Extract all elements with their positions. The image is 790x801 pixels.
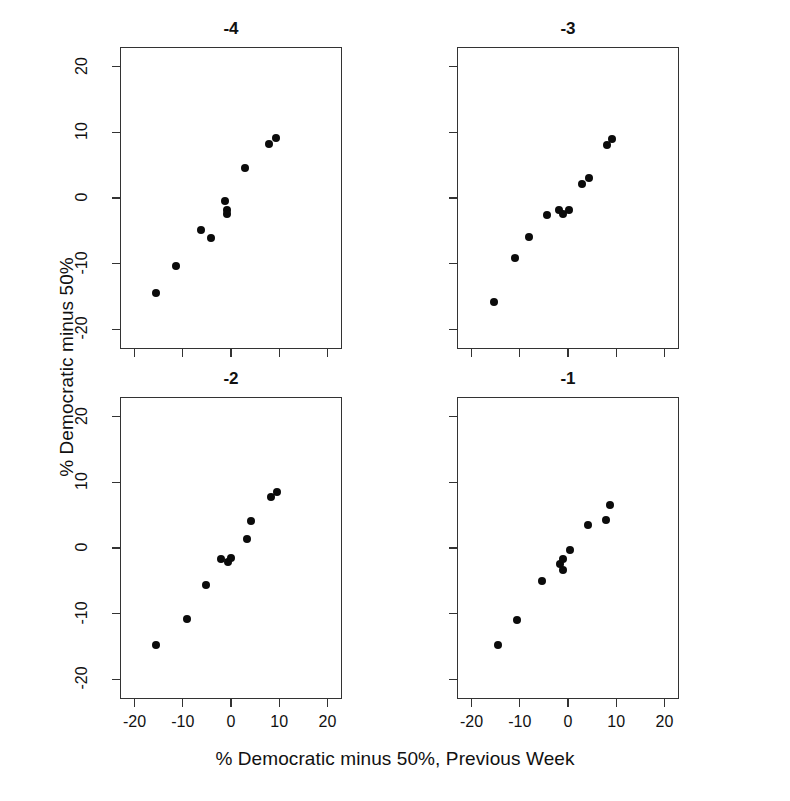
data-point [494,641,502,649]
x-tick-label: 0 [564,713,573,731]
y-tick [449,482,457,484]
y-tick [449,679,457,681]
panel-minus1: -1-20-1001020 [0,0,790,801]
x-tick-label: 10 [607,713,625,731]
x-tick [471,699,473,707]
y-tick [449,547,457,549]
y-tick [449,613,457,615]
x-tick-label: -10 [508,713,531,731]
x-tick-label: -20 [460,713,483,731]
scatterplot-matrix-figure: % Democratic minus 50% % Democratic minu… [0,0,790,801]
x-tick [664,699,666,707]
data-point [606,501,614,509]
data-point [559,555,567,563]
x-tick-label: 20 [656,713,674,731]
panel-title: -1 [457,369,679,389]
x-tick [567,699,569,707]
x-tick [616,699,618,707]
y-tick [449,416,457,418]
x-tick [519,699,521,707]
